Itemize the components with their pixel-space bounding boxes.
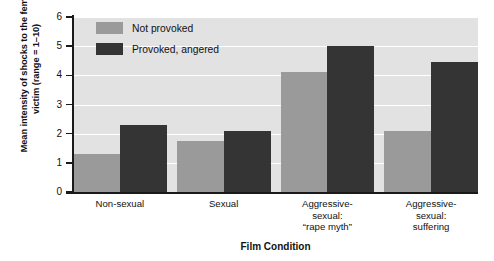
chart-legend: Not provoked Provoked, angered: [96, 22, 219, 55]
bar-not-provoked: [281, 72, 328, 192]
y-axis-tick: [66, 191, 73, 193]
y-axis-tick-label: 4: [48, 70, 62, 80]
y-axis-tick-label: 1: [48, 158, 62, 168]
x-axis-category-label-line: Aggressive-: [372, 198, 490, 210]
y-axis-tick: [66, 16, 73, 18]
bar-provoked: [431, 62, 478, 192]
y-axis-tick: [66, 75, 73, 77]
x-axis-title: Film Condition: [73, 241, 478, 252]
x-axis-category-label-line: Aggressive-: [269, 198, 387, 210]
x-axis-category-label-line: Non-sexual: [61, 198, 179, 210]
x-axis-category-label-line: sexual:: [269, 210, 387, 222]
y-axis-tick-label: 3: [48, 100, 62, 110]
legend-swatch-not-provoked: [96, 22, 123, 34]
legend-item-not-provoked: Not provoked: [96, 22, 219, 34]
y-axis-tick-label: 2: [48, 129, 62, 139]
y-axis-tick: [66, 45, 73, 47]
y-axis-tick: [66, 133, 73, 135]
y-axis-tick-label: 6: [48, 12, 62, 22]
y-axis-tick: [66, 104, 73, 106]
x-axis-category-label: Aggressive-sexual:suffering: [372, 198, 490, 233]
gridline: [73, 105, 478, 106]
bar-provoked: [327, 46, 374, 192]
x-axis-category-label-line: sexual:: [372, 210, 490, 222]
bar-not-provoked: [177, 141, 224, 192]
gridline: [73, 75, 478, 76]
y-axis-title: Mean intensity of shocks to the female v…: [13, 0, 47, 159]
x-axis-category-label: Non-sexual: [61, 198, 179, 210]
bar-provoked: [224, 131, 271, 192]
bar-provoked: [120, 125, 167, 192]
x-axis-line: [66, 192, 478, 194]
y-axis-tick: [66, 162, 73, 164]
legend-swatch-provoked: [96, 43, 123, 55]
x-axis-category-label: Aggressive-sexual:“rape myth”: [269, 198, 387, 233]
x-axis-category-label-line: suffering: [372, 221, 490, 233]
bar-not-provoked: [384, 131, 431, 192]
x-axis-category-label-line: “rape myth”: [269, 221, 387, 233]
legend-label-provoked: Provoked, angered: [132, 44, 219, 55]
x-axis-category-label-line: Sexual: [165, 198, 283, 210]
x-axis-category-label: Sexual: [165, 198, 283, 210]
legend-item-provoked: Provoked, angered: [96, 43, 219, 55]
bar-not-provoked: [73, 154, 120, 192]
gridline: [73, 17, 478, 18]
bar-chart-figure: Mean intensity of shocks to the female v…: [0, 0, 494, 261]
y-axis-tick-label: 5: [48, 41, 62, 51]
y-axis-tick-label: 0: [48, 187, 62, 197]
legend-label-not-provoked: Not provoked: [132, 23, 193, 34]
